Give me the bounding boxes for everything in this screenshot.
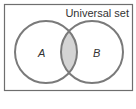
set-a-label: A: [37, 47, 45, 59]
universal-set-label: Universal set: [65, 7, 129, 19]
venn-diagram: Universal set A B: [0, 0, 136, 109]
set-b-label: B: [93, 47, 100, 59]
